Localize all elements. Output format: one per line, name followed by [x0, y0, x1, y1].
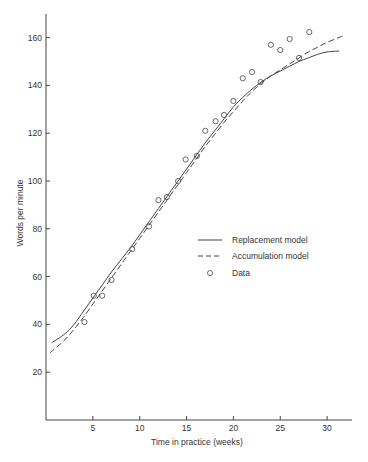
data-point-marker — [156, 198, 161, 203]
x-tick-label: 15 — [182, 423, 192, 433]
legend: Replacement model Accumulation model Dat… — [198, 235, 309, 278]
axes — [46, 14, 352, 420]
data-point-marker — [287, 36, 292, 41]
legend-label-replacement: Replacement model — [232, 235, 308, 245]
data-point-marker — [100, 293, 105, 298]
accumulation-model-line — [50, 36, 343, 353]
x-axis-label: Time in practice (weeks) — [151, 437, 243, 447]
data-point-marker — [278, 47, 283, 52]
data-point-marker — [130, 247, 135, 252]
data-point-marker — [268, 42, 273, 47]
legend-data-marker-icon — [208, 271, 213, 276]
x-tick-label: 10 — [135, 423, 145, 433]
y-tick-label: 40 — [33, 319, 43, 329]
y-tick-label: 100 — [28, 176, 42, 186]
y-axis-label: Words per minute — [15, 179, 25, 246]
y-ticks: 20406080100120140160 — [28, 33, 50, 378]
y-tick-label: 140 — [28, 80, 42, 90]
line-chart: 51015202530 20406080100120140160 Time in… — [0, 0, 368, 462]
y-tick-label: 120 — [28, 128, 42, 138]
legend-label-accumulation: Accumulation model — [232, 251, 309, 261]
y-tick-label: 60 — [33, 272, 43, 282]
x-tick-label: 5 — [90, 423, 95, 433]
y-tick-label: 80 — [33, 224, 43, 234]
data-point-marker — [203, 128, 208, 133]
x-ticks: 51015202530 — [90, 416, 332, 433]
plot-series — [50, 30, 343, 354]
data-point-marker — [82, 319, 87, 324]
data-point-marker — [250, 69, 255, 74]
x-tick-label: 25 — [276, 423, 286, 433]
data-point-marker — [213, 119, 218, 124]
data-point-marker — [240, 76, 245, 81]
replacement-model-line — [52, 51, 340, 343]
y-tick-label: 160 — [28, 33, 42, 43]
x-tick-label: 30 — [322, 423, 332, 433]
y-tick-label: 20 — [33, 367, 43, 377]
data-point-marker — [221, 112, 226, 117]
data-point-marker — [231, 98, 236, 103]
x-tick-label: 20 — [229, 423, 239, 433]
data-point-marker — [307, 30, 312, 35]
legend-label-data: Data — [232, 268, 250, 278]
data-point-marker — [183, 157, 188, 162]
